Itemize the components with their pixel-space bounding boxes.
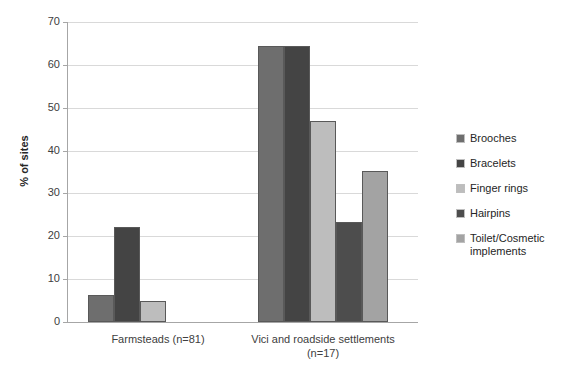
gridline	[68, 151, 418, 152]
legend-item[interactable]: Toilet/Cosmetic implements	[456, 232, 568, 258]
bar	[114, 227, 140, 322]
legend-swatch-icon	[456, 234, 465, 243]
y-axis-tick-label: 20	[34, 230, 60, 241]
y-axis-tick-label: 70	[34, 16, 60, 27]
y-axis-tick-mark	[63, 108, 68, 109]
bar-chart-figure: % of sites 010203040506070 Farmsteads (n…	[0, 0, 568, 376]
y-axis-tick-mark	[63, 279, 68, 280]
legend-swatch-icon	[456, 159, 465, 168]
bar	[362, 171, 388, 322]
legend-item-label: Bracelets	[470, 157, 516, 170]
bar	[310, 121, 336, 322]
y-axis-tick-mark	[63, 236, 68, 237]
x-axis-category-label: Farmsteads (n=81)	[78, 332, 238, 346]
y-axis-tick-mark	[63, 22, 68, 23]
bar	[88, 295, 114, 322]
legend: BroochesBraceletsFinger ringsHairpinsToi…	[456, 132, 568, 270]
x-axis-line	[68, 322, 418, 323]
bar	[336, 222, 362, 322]
plot-area	[68, 22, 418, 322]
bar	[140, 301, 166, 322]
legend-item[interactable]: Bracelets	[456, 157, 568, 170]
legend-item[interactable]: Hairpins	[456, 207, 568, 220]
y-axis-tick-label: 50	[34, 102, 60, 113]
gridline	[68, 65, 418, 66]
legend-item-label: Hairpins	[470, 207, 510, 220]
legend-item[interactable]: Brooches	[456, 132, 568, 145]
legend-swatch-icon	[456, 184, 465, 193]
y-axis-tick-label: 40	[34, 145, 60, 156]
bar	[258, 46, 284, 322]
y-axis-tick-mark	[63, 65, 68, 66]
y-axis-tick-label: 10	[34, 273, 60, 284]
legend-swatch-icon	[456, 209, 465, 218]
legend-item[interactable]: Finger rings	[456, 182, 568, 195]
gridline	[68, 108, 418, 109]
legend-swatch-icon	[456, 134, 465, 143]
bar	[284, 46, 310, 322]
y-axis-tick-mark	[63, 322, 68, 323]
x-axis-category-label: Vici and roadside settlements (n=17)	[243, 332, 403, 360]
y-axis-tick-label: 0	[34, 316, 60, 327]
y-axis-tick-mark	[63, 151, 68, 152]
legend-item-label: Finger rings	[470, 182, 528, 195]
legend-item-label: Toilet/Cosmetic implements	[470, 232, 568, 258]
y-axis-tick-label: 60	[34, 59, 60, 70]
gridline	[68, 22, 418, 23]
y-axis-tick-labels: 010203040506070	[26, 0, 60, 376]
y-axis-tick-label: 30	[34, 187, 60, 198]
legend-item-label: Brooches	[470, 132, 516, 145]
y-axis-tick-mark	[63, 193, 68, 194]
